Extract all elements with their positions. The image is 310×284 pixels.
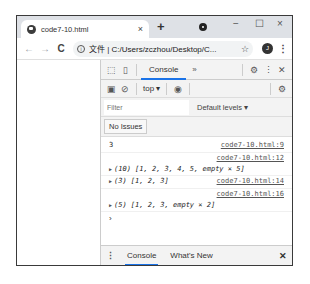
context-selector[interactable]: top ▾ bbox=[143, 84, 160, 93]
url-text: 文件 | C:/Users/zczhou/Desktop/C... bbox=[89, 43, 241, 54]
new-tab-button[interactable]: + bbox=[157, 19, 165, 34]
profile-avatar[interactable]: J bbox=[262, 43, 273, 54]
expand-triangle-icon[interactable]: ▶ bbox=[109, 166, 112, 172]
console-settings-icon[interactable]: ⚙ bbox=[275, 84, 289, 94]
browser-menu-icon[interactable]: ⋮ bbox=[278, 43, 288, 54]
back-button[interactable]: ← bbox=[21, 43, 37, 54]
close-tab-icon[interactable]: × bbox=[138, 24, 143, 34]
close-drawer-icon[interactable]: ✕ bbox=[279, 251, 287, 261]
source-link[interactable]: code7-10.html:14 bbox=[217, 176, 284, 187]
bookmark-star-icon[interactable]: ☆ bbox=[241, 44, 249, 54]
forward-button[interactable]: → bbox=[37, 43, 53, 54]
close-devtools-icon[interactable]: ✕ bbox=[275, 65, 289, 75]
sidebar-toggle-icon[interactable]: ▣ bbox=[104, 84, 118, 94]
drawer-tab-console[interactable]: Console bbox=[125, 246, 158, 266]
address-bar-row: ← → C i 文件 | C:/Users/zczhou/Desktop/C..… bbox=[17, 38, 292, 60]
console-message: 3code7-10.html:9 bbox=[101, 140, 292, 153]
log-levels-dropdown[interactable]: Default levels ▾ bbox=[197, 103, 248, 112]
devtools-panel: ⬚ ▯ Console » ⚙ ⋮ ✕ ▣ ⊘ top ▾ ◉ bbox=[100, 60, 292, 265]
divider bbox=[136, 83, 137, 95]
filter-row: Default levels ▾ bbox=[101, 98, 292, 117]
globe-icon bbox=[27, 25, 36, 34]
console-output: 3code7-10.html:9 code7-10.html:12 ▶(10) … bbox=[101, 137, 292, 226]
more-tabs-icon[interactable]: » bbox=[192, 65, 196, 74]
no-issues-button[interactable]: No Issues bbox=[104, 119, 147, 134]
tab-bar: code7-10.html × + − ☐ × bbox=[17, 16, 292, 38]
console-message[interactable]: code7-10.html:16 ▶(5) [1, 2, 3, empty × … bbox=[101, 189, 292, 212]
source-link[interactable]: code7-10.html:12 bbox=[217, 153, 284, 164]
browser-window: code7-10.html × + − ☐ × ← → C i 文件 | C:/… bbox=[16, 15, 293, 266]
minimize-button[interactable]: − bbox=[233, 18, 239, 29]
devtools-toolbar: ⬚ ▯ Console » ⚙ ⋮ ✕ bbox=[101, 60, 292, 80]
browser-tab[interactable]: code7-10.html × bbox=[21, 20, 149, 38]
issues-row: No Issues bbox=[101, 117, 292, 137]
console-message[interactable]: ▶(3) [1, 2, 3]code7-10.html:14 bbox=[101, 176, 292, 189]
console-message[interactable]: code7-10.html:12 ▶(10) [1, 2, 3, 4, 5, e… bbox=[101, 153, 292, 176]
reload-button[interactable]: C bbox=[53, 43, 69, 54]
drawer-tab-whats-new[interactable]: What's New bbox=[168, 246, 214, 266]
filter-input[interactable] bbox=[104, 100, 189, 115]
console-prompt[interactable]: › bbox=[101, 212, 292, 226]
eye-icon[interactable]: ◉ bbox=[171, 84, 185, 94]
divider bbox=[189, 83, 190, 95]
expand-triangle-icon[interactable]: ▶ bbox=[109, 178, 112, 184]
divider bbox=[270, 83, 271, 95]
source-link[interactable]: code7-10.html:16 bbox=[217, 189, 284, 200]
close-window-button[interactable]: × bbox=[277, 18, 283, 29]
source-link[interactable]: code7-10.html:9 bbox=[221, 140, 284, 151]
clear-console-icon[interactable]: ⊘ bbox=[118, 84, 132, 94]
drawer-bar: ⋮ Console What's New ✕ bbox=[101, 245, 292, 265]
device-toolbar-icon[interactable]: ▯ bbox=[118, 65, 132, 75]
record-icon bbox=[199, 23, 207, 31]
divider bbox=[136, 64, 137, 76]
console-toolbar: ▣ ⊘ top ▾ ◉ ⚙ bbox=[101, 80, 292, 98]
tab-console[interactable]: Console bbox=[141, 60, 186, 80]
inspect-element-icon[interactable]: ⬚ bbox=[104, 65, 118, 75]
drawer-menu-icon[interactable]: ⋮ bbox=[106, 251, 115, 261]
divider bbox=[166, 83, 167, 95]
tab-title: code7-10.html bbox=[41, 25, 138, 34]
page-content: ⬚ ▯ Console » ⚙ ⋮ ✕ ▣ ⊘ top ▾ ◉ bbox=[17, 60, 292, 265]
settings-gear-icon[interactable]: ⚙ bbox=[247, 65, 261, 75]
divider bbox=[242, 64, 243, 76]
devtools-menu-icon[interactable]: ⋮ bbox=[261, 65, 275, 75]
address-bar[interactable]: i 文件 | C:/Users/zczhou/Desktop/C... ☆ bbox=[73, 41, 253, 57]
maximize-button[interactable]: ☐ bbox=[255, 18, 264, 29]
info-icon[interactable]: i bbox=[77, 45, 85, 53]
expand-triangle-icon[interactable]: ▶ bbox=[109, 202, 112, 208]
